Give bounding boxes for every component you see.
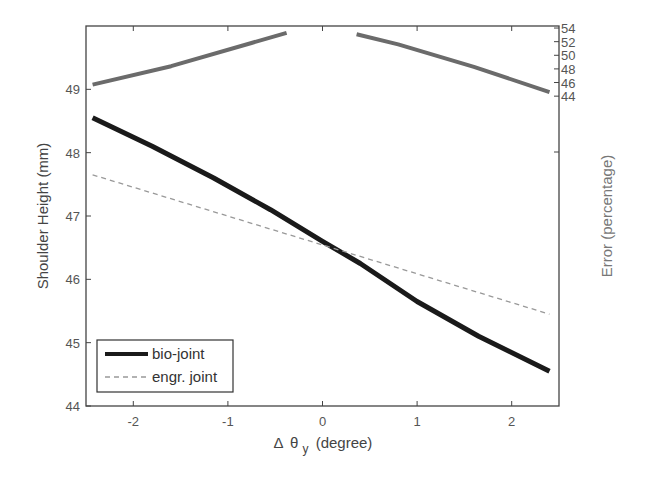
y-tick-label: 44 [66, 399, 80, 414]
x-tick-label: -1 [222, 414, 234, 429]
x-tick-label: 1 [413, 414, 420, 429]
right-y-tick-label: 54 [561, 21, 575, 36]
x-axis-title-theta: θ [290, 434, 298, 451]
right-y-tick-label: 50 [561, 48, 575, 63]
x-axis-title-subscript: y [303, 442, 309, 456]
x-axis-title-unit: (degree) [316, 434, 373, 451]
x-tick-label: -2 [128, 414, 140, 429]
x-tick-label: 2 [508, 414, 515, 429]
chart: -2-1012444546474849444648505254 Shoulder… [0, 0, 651, 478]
right-y-tick-label: 48 [561, 62, 575, 77]
y-axis-title: Shoulder Height (mm) [34, 143, 51, 290]
y-tick-label: 45 [66, 336, 80, 351]
right-y-tick-label: 44 [561, 89, 575, 104]
y-tick-label: 49 [66, 82, 80, 97]
x-tick-label: 0 [319, 414, 326, 429]
legend: bio-joint engr. joint [97, 340, 233, 392]
y-tick-label: 46 [66, 272, 80, 287]
x-axis-title-delta: Δ [274, 434, 284, 451]
y-tick-label: 47 [66, 209, 80, 224]
legend-label-bio-joint: bio-joint [152, 345, 205, 362]
legend-label-engr-joint: engr. joint [152, 368, 218, 385]
x-axis-title: Δ θ y (degree) [274, 434, 373, 456]
right-y-tick-label: 52 [561, 35, 575, 50]
y-tick-label: 48 [66, 146, 80, 161]
right-y-tick-label: 46 [561, 76, 575, 91]
right-y-axis-title: Error (percentage) [598, 155, 615, 278]
